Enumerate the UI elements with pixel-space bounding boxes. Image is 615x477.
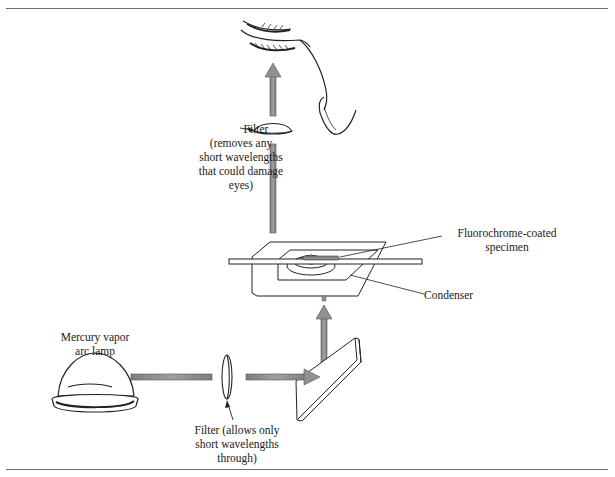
mercury-vapor-lamp <box>52 353 138 412</box>
eye-icon <box>241 21 356 134</box>
barrier-filter-label-line4: that could damage <box>186 164 296 178</box>
lamp-label: Mercury vapor arc lamp <box>40 330 150 358</box>
fluorochrome-specimen <box>303 256 339 260</box>
specimen-label-line2: specimen <box>442 240 572 254</box>
barrier-filter-label-line1: Filter <box>186 122 296 136</box>
barrier-filter-label-line2: (removes any <box>186 136 296 150</box>
lamp-label-line2: arc lamp <box>40 344 150 358</box>
barrier-filter-label: Filter (removes any short wavelengths th… <box>186 122 296 192</box>
lamp-beam-segment-1 <box>131 374 212 380</box>
barrier-filter-label-line3: short wavelengths <box>186 150 296 164</box>
lamp-label-line1: Mercury vapor <box>40 330 150 344</box>
excitation-beam-vertical <box>316 296 332 366</box>
exciter-filter-label: Filter (allows only short wavelengths th… <box>182 423 292 465</box>
exciter-filter-label-line3: through) <box>182 451 292 465</box>
emitted-light-beam-top <box>265 63 281 116</box>
exciter-filter-label-line1: Filter (allows only <box>182 423 292 437</box>
specimen-label: Fluorochrome-coated specimen <box>442 226 572 254</box>
condenser-label: Condenser <box>424 288 473 302</box>
exciter-filter-lens <box>222 355 232 399</box>
barrier-filter-label-line5: eyes) <box>186 178 296 192</box>
specimen-label-line1: Fluorochrome-coated <box>442 226 572 240</box>
exciter-filter-label-line2: short wavelengths <box>182 437 292 451</box>
lamp-beam-segment-2 <box>246 369 320 385</box>
exciter-filter-pointer-arrow <box>225 400 233 420</box>
